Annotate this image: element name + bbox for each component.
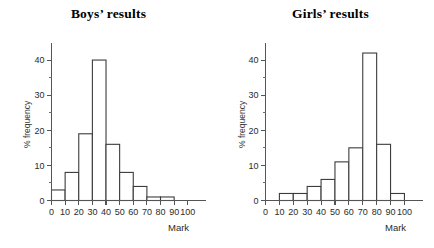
bar-series-boys xyxy=(52,60,175,200)
y-tick-label: 20 xyxy=(248,126,258,136)
histogram-figure: Boys’ results % frequency Mark 010203040… xyxy=(0,0,434,248)
histogram-bar xyxy=(79,134,93,201)
x-tick-label: 90 xyxy=(169,207,179,217)
x-tick-label: 40 xyxy=(101,207,111,217)
x-tick-label: 100 xyxy=(397,207,412,217)
x-tick-label: 70 xyxy=(142,207,152,217)
histogram-bar xyxy=(92,60,106,200)
y-tick-label: 20 xyxy=(34,126,44,136)
y-tick-label: 40 xyxy=(34,55,44,65)
histogram-bar xyxy=(349,148,363,201)
histogram-bar xyxy=(307,186,321,200)
x-tick-label: 40 xyxy=(316,207,326,217)
histogram-bar xyxy=(65,172,79,200)
y-tick-label: 10 xyxy=(34,161,44,171)
histogram-bar xyxy=(335,162,349,201)
x-tick-label: 30 xyxy=(302,207,312,217)
histogram-bar xyxy=(293,193,307,200)
x-tick-label: 0 xyxy=(49,207,54,217)
x-tick-label: 70 xyxy=(358,207,368,217)
plot-area-girls: 0102030400102030405060708090100 xyxy=(217,0,434,248)
plot-area-boys: 0102030400102030405060708090100 xyxy=(0,0,217,248)
bar-series-girls xyxy=(279,53,404,200)
histogram-bar xyxy=(106,144,120,200)
x-tick-label: 100 xyxy=(180,207,195,217)
histogram-bar xyxy=(321,179,335,200)
x-tick-label: 30 xyxy=(87,207,97,217)
x-tick-label: 90 xyxy=(386,207,396,217)
x-tick-label: 0 xyxy=(263,207,268,217)
x-tick-label: 10 xyxy=(274,207,284,217)
x-tick-label: 50 xyxy=(115,207,125,217)
y-tick-label: 30 xyxy=(34,90,44,100)
y-tick-label: 0 xyxy=(253,196,258,206)
x-tick-label: 20 xyxy=(288,207,298,217)
x-tick-label: 60 xyxy=(344,207,354,217)
x-tick-label: 60 xyxy=(128,207,138,217)
x-tick-label: 10 xyxy=(60,207,70,217)
y-tick-label: 10 xyxy=(248,161,258,171)
histogram-bar xyxy=(391,193,405,200)
histogram-bar xyxy=(377,144,391,200)
histogram-bar xyxy=(363,53,377,200)
y-tick-label: 40 xyxy=(248,55,258,65)
histogram-bar xyxy=(52,190,66,201)
chart-panel-boys: Boys’ results % frequency Mark 010203040… xyxy=(0,0,217,248)
histogram-bar xyxy=(279,193,293,200)
histogram-bar xyxy=(133,186,147,200)
x-tick-label: 50 xyxy=(330,207,340,217)
x-tick-label: 80 xyxy=(156,207,166,217)
y-tick-label: 30 xyxy=(248,90,258,100)
chart-panel-girls: Girls’ results % frequency Mark 01020304… xyxy=(217,0,434,248)
histogram-bar xyxy=(120,172,134,200)
x-tick-label: 20 xyxy=(74,207,84,217)
x-tick-label: 80 xyxy=(372,207,382,217)
y-tick-label: 0 xyxy=(39,196,44,206)
